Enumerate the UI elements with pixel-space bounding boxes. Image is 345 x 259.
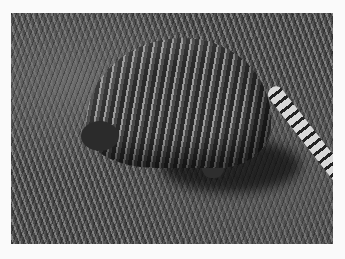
armadillo-head <box>81 121 119 151</box>
armadillo-photo <box>11 13 333 244</box>
